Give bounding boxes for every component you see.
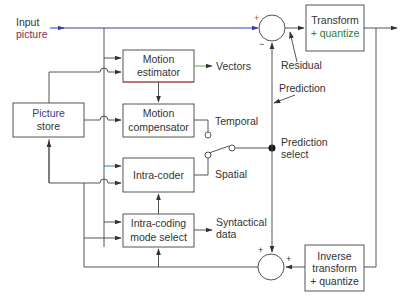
summing-junction-top	[259, 15, 285, 41]
summer-bottom-plus-right: +	[286, 254, 291, 264]
intra-coder-to-spatial	[194, 158, 208, 175]
store-to-estimator	[49, 68, 121, 103]
inverse-transform-label-2: transform	[312, 262, 357, 274]
motion-compensator-block: Motion compensator	[123, 104, 194, 137]
summer-bottom-plus-top: +	[258, 245, 263, 255]
summer-top-minus: −	[259, 39, 264, 49]
inverse-transform-label-1: Inverse	[317, 250, 352, 262]
transform-block: Transform + quantize	[306, 5, 364, 51]
switch-arm[interactable]	[209, 146, 229, 153]
temporal-contact	[205, 132, 211, 138]
transform-label-1: Transform	[311, 14, 359, 26]
motion-estimator-block: Motion estimator	[123, 50, 194, 82]
intra-mode-select-label-1: Intra-coding	[131, 217, 187, 229]
summing-junction-bottom	[258, 254, 284, 280]
motion-estimator-label-2: estimator	[137, 66, 181, 78]
switch-pivot	[229, 145, 235, 151]
compensator-to-temporal	[194, 120, 208, 132]
intra-mode-select-label-2: mode select	[130, 231, 187, 243]
prediction-pointer	[274, 95, 295, 103]
motion-compensator-label-2: compensator	[128, 121, 189, 133]
residual-pointer	[290, 32, 297, 62]
prediction-select-label-1: Prediction	[281, 136, 328, 148]
encoder-diagram: Input picture + − Residual Transform + q…	[0, 0, 402, 298]
store-to-compensator	[84, 116, 121, 120]
syntactical-label-2: data	[216, 228, 237, 240]
intra-coder-label: Intra-coder	[133, 169, 184, 181]
prediction-label: Prediction	[279, 82, 326, 94]
vectors-label: Vectors	[216, 60, 251, 72]
summer-top: + −	[254, 13, 285, 49]
input-signal: Input picture	[16, 16, 258, 40]
summer-bottom: + +	[258, 245, 291, 280]
inverse-transform-block: Inverse transform + quantize	[305, 245, 364, 291]
picture-store-label-1: Picture	[32, 107, 65, 119]
picture-store-block: Picture store	[13, 103, 84, 137]
temporal-label: Temporal	[215, 115, 258, 127]
input-label-line2: picture	[16, 28, 48, 40]
transform-label-2: + quantize	[311, 27, 360, 39]
input-label-line1: Input	[16, 16, 39, 28]
prediction-select-label-2: select	[281, 148, 309, 160]
syntactical-label-1: Syntactical	[216, 216, 267, 228]
feedback-line	[364, 28, 376, 267]
intra-coder-block: Intra-coder	[123, 158, 194, 192]
loop-to-intra-coder	[49, 139, 121, 183]
inverse-transform-label-3: + quantize	[310, 275, 359, 287]
picture-store-label-2: store	[37, 120, 61, 132]
summer-top-plus: +	[254, 13, 259, 23]
motion-estimator-label-1: Motion	[143, 53, 175, 65]
motion-compensator-label-1: Motion	[143, 107, 175, 119]
residual-label: Residual	[281, 59, 322, 71]
intra-mode-select-block: Intra-coding mode select	[123, 214, 194, 247]
spatial-label: Spatial	[215, 168, 247, 180]
